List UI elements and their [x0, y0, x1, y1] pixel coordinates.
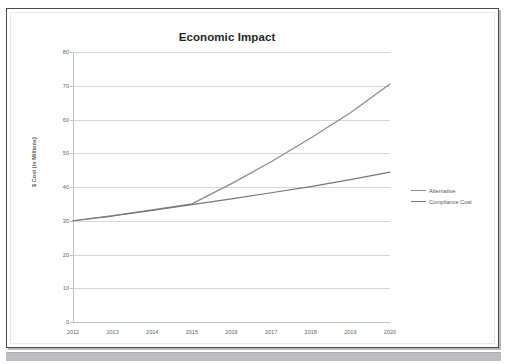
x-tick-label: 2019	[344, 329, 356, 335]
legend-item[interactable]: Alternative	[411, 185, 497, 196]
y-tick-label: 10	[63, 285, 69, 291]
x-tick-label: 2012	[67, 329, 79, 335]
y-tick-label: 0	[66, 319, 69, 325]
legend-item[interactable]: Compliance Cost	[411, 196, 497, 207]
economic-impact-chart: Economic Impact $ Cost (in Millions) 010…	[7, 9, 498, 347]
y-tick-label: 70	[63, 83, 69, 89]
x-tick-label: 2016	[225, 329, 237, 335]
legend-line-swatch	[411, 190, 426, 192]
y-tick-label: 20	[63, 252, 69, 258]
x-tick-label: 2015	[186, 329, 198, 335]
chart-title: Economic Impact	[7, 31, 447, 43]
x-tick-label: 2013	[106, 329, 118, 335]
x-tick-label: 2017	[265, 329, 277, 335]
chart-legend: AlternativeCompliance Cost	[411, 185, 497, 207]
plot-area: 01020304050607080 2012201320142015201620…	[73, 52, 390, 322]
gridline	[73, 322, 390, 323]
series-lines	[73, 52, 390, 322]
legend-label: Compliance Cost	[429, 199, 472, 205]
x-tick-label: 2018	[305, 329, 317, 335]
y-tick-label: 40	[63, 184, 69, 190]
y-tick-mark	[70, 322, 73, 323]
document-page: Economic Impact $ Cost (in Millions) 010…	[6, 8, 499, 348]
x-tick-label: 2020	[384, 329, 396, 335]
scan-bottom-bar	[6, 352, 501, 361]
legend-label: Alternative	[429, 188, 455, 194]
x-tick-label: 2014	[146, 329, 158, 335]
series-line	[73, 84, 390, 221]
y-axis-title: $ Cost (in Millions)	[31, 117, 37, 207]
y-tick-label: 80	[63, 49, 69, 55]
legend-line-swatch	[411, 201, 426, 203]
y-tick-label: 60	[63, 117, 69, 123]
y-tick-label: 50	[63, 150, 69, 156]
scan-top-text-fragment	[0, 0, 507, 7]
series-line	[73, 172, 390, 221]
y-tick-label: 30	[63, 218, 69, 224]
